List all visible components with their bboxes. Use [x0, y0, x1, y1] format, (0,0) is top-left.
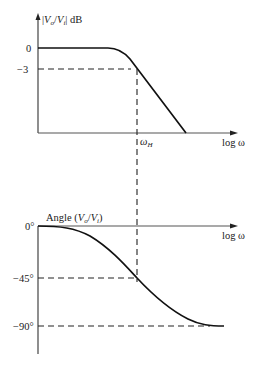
magnitude-y-axis-arrow-icon: [36, 13, 41, 20]
tick-label-0db: 0: [26, 43, 31, 54]
phase-x-axis-arrow-icon: [230, 224, 238, 229]
phase-plot: Angle (Vo/Vi) 0° −45° −90° log ω: [13, 212, 245, 354]
magnitude-curve: [38, 48, 186, 133]
corner-frequency-label: ωH: [140, 136, 153, 149]
magnitude-x-label: log ω: [222, 137, 245, 148]
magnitude-plot: |Vo/Vi| dB 0 −3 log ω ωH: [17, 13, 245, 149]
magnitude-x-axis-arrow-icon: [230, 131, 238, 136]
phase-curve: [38, 226, 224, 326]
bode-diagram: |Vo/Vi| dB 0 −3 log ω ωH Angle (Vo/Vi) 0…: [0, 0, 256, 368]
tick-label-minus45deg: −45°: [13, 273, 34, 284]
magnitude-y-label: |Vo/Vi| dB: [42, 14, 82, 27]
tick-label-minus3db: −3: [17, 64, 28, 75]
phase-y-label: Angle (Vo/Vi): [46, 212, 103, 225]
tick-label-minus90deg: −90°: [13, 321, 34, 332]
tick-label-0deg: 0°: [25, 221, 34, 232]
phase-x-label: log ω: [222, 230, 245, 241]
